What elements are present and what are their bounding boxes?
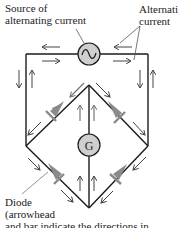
diode-lower-right [110, 164, 127, 184]
ac-source [78, 43, 100, 65]
arrow-diagonal-icon [61, 190, 73, 202]
diode-arrowhead-icon [50, 101, 64, 117]
alt-leader-line-1 [120, 26, 140, 43]
arrow-diagonal-icon [70, 83, 84, 97]
source-leader-line [76, 29, 84, 43]
bridge-rectifier-diagram: G [0, 0, 178, 228]
alt-leader-line-2 [134, 26, 140, 60]
diode-leader-line [22, 172, 48, 194]
galvanometer-label: G [85, 139, 94, 153]
arrow-diagonal-icon [28, 158, 40, 170]
outer-wires [26, 54, 148, 146]
galvanometer: G [78, 134, 100, 156]
